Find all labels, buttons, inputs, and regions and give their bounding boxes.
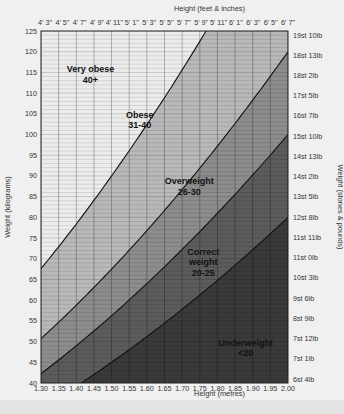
y-tick-label: 90 bbox=[29, 171, 37, 180]
x-tick-label: 1.50 bbox=[105, 384, 119, 393]
zone-label: weight bbox=[188, 257, 218, 267]
zone-label: <20 bbox=[238, 348, 253, 358]
y-tick-label: 85 bbox=[29, 192, 37, 201]
top-tick-label: 6' 7" bbox=[281, 18, 295, 27]
zone-label: 26-30 bbox=[178, 187, 201, 197]
right-tick-label: 14st 13lb bbox=[293, 152, 322, 161]
top-tick-label: 5' 5" bbox=[160, 18, 174, 27]
zone-label: 20-25 bbox=[192, 268, 215, 278]
y-tick-label: 100 bbox=[25, 130, 37, 139]
right-tick-label: 12st 8lb bbox=[293, 213, 318, 222]
top-axis-title: Height (feet & inches) bbox=[174, 4, 245, 13]
y-tick-label: 70 bbox=[29, 254, 37, 263]
y-tick-label: 40 bbox=[29, 379, 37, 388]
x-tick-label: 1.60 bbox=[140, 384, 154, 393]
y-tick-label: 50 bbox=[29, 337, 37, 346]
top-tick-label: 5' 9" bbox=[194, 18, 208, 27]
top-tick-label: 5' 3" bbox=[142, 18, 156, 27]
right-tick-label: 13st 5lb bbox=[293, 192, 318, 201]
y-tick-label: 80 bbox=[29, 213, 37, 222]
right-tick-label: 9st 6lb bbox=[293, 294, 314, 303]
y-axis-title: Weight (kilograms) bbox=[3, 176, 12, 237]
right-tick-label: 18st 2lb bbox=[293, 71, 318, 80]
right-tick-label: 17st 5lb bbox=[293, 91, 318, 100]
y-tick-label: 95 bbox=[29, 151, 37, 160]
top-tick-label: 5' 11" bbox=[210, 18, 228, 27]
right-axis-ticks: 6st 4lb7st 1lb7st 12lb8st 9lb9st 6lb10st… bbox=[293, 31, 322, 384]
y-tick-label: 105 bbox=[25, 109, 37, 118]
x-axis-ticks: 1.301.351.401.451.501.551.601.651.701.75… bbox=[34, 384, 295, 393]
x-tick-label: 1.65 bbox=[158, 384, 172, 393]
right-tick-label: 18st 13lb bbox=[293, 51, 322, 60]
y-tick-label: 60 bbox=[29, 296, 37, 305]
right-tick-label: 14st 2lb bbox=[293, 172, 318, 181]
y-tick-label: 45 bbox=[29, 358, 37, 367]
zone-label: 31-40 bbox=[128, 120, 151, 130]
top-axis-ticks: 4' 3"4' 5"4' 7"4' 9"4' 11"5' 1"5' 3"5' 5… bbox=[38, 18, 295, 27]
top-tick-label: 6' 5" bbox=[264, 18, 278, 27]
right-tick-label: 11st 0lb bbox=[293, 253, 318, 262]
y-tick-label: 75 bbox=[29, 234, 37, 243]
x-tick-label: 1.95 bbox=[263, 384, 277, 393]
zone-label: Overweight bbox=[165, 176, 214, 186]
right-tick-label: 16st 7lb bbox=[293, 111, 318, 120]
zone-label: Underweight bbox=[218, 338, 273, 348]
top-tick-label: 6' 1" bbox=[229, 18, 243, 27]
top-tick-label: 4' 5" bbox=[55, 18, 69, 27]
y-tick-label: 55 bbox=[29, 316, 37, 325]
y-tick-label: 125 bbox=[25, 27, 37, 36]
x-axis-title: Height (metres) bbox=[194, 389, 245, 398]
top-tick-label: 4' 11" bbox=[106, 18, 124, 27]
x-tick-label: 1.55 bbox=[122, 384, 136, 393]
right-tick-label: 19st 10lb bbox=[293, 31, 322, 40]
right-tick-label: 7st 12lb bbox=[293, 334, 318, 343]
top-tick-label: 4' 9" bbox=[90, 18, 104, 27]
top-tick-label: 5' 7" bbox=[177, 18, 191, 27]
y-axis-ticks: 4045505560657075808590951001051101151201… bbox=[25, 27, 37, 388]
zone-label: Very obese bbox=[67, 64, 115, 74]
top-tick-label: 5' 1" bbox=[125, 18, 139, 27]
x-tick-label: 1.70 bbox=[175, 384, 189, 393]
x-tick-label: 1.35 bbox=[52, 384, 66, 393]
x-tick-label: 1.45 bbox=[87, 384, 101, 393]
zone-label: 40+ bbox=[83, 75, 98, 85]
zone-label: Correct bbox=[187, 247, 219, 257]
top-tick-label: 4' 7" bbox=[73, 18, 87, 27]
y-tick-label: 115 bbox=[26, 68, 37, 77]
right-tick-label: 11st 11lb bbox=[293, 233, 321, 242]
y-tick-label: 120 bbox=[25, 47, 37, 56]
bmi-chart: Underweight<20Correctweight20-25Overweig… bbox=[0, 0, 344, 414]
right-tick-label: 7st 1lb bbox=[293, 354, 314, 363]
x-tick-label: 1.40 bbox=[69, 384, 83, 393]
y-tick-label: 110 bbox=[26, 89, 37, 98]
top-tick-label: 4' 3" bbox=[38, 18, 52, 27]
right-tick-label: 6st 4lb bbox=[293, 375, 314, 384]
right-axis-title: Weight (stones & pounds) bbox=[336, 165, 344, 250]
right-tick-label: 8st 9lb bbox=[293, 314, 314, 323]
zone-label: Obese bbox=[126, 110, 154, 120]
top-tick-label: 6' 3" bbox=[246, 18, 260, 27]
right-tick-label: 10st 3lb bbox=[293, 273, 318, 282]
x-tick-label: 2.00 bbox=[281, 384, 295, 393]
right-tick-label: 15st 10lb bbox=[293, 132, 322, 141]
x-tick-label: 1.90 bbox=[246, 384, 260, 393]
y-tick-label: 65 bbox=[29, 275, 37, 284]
